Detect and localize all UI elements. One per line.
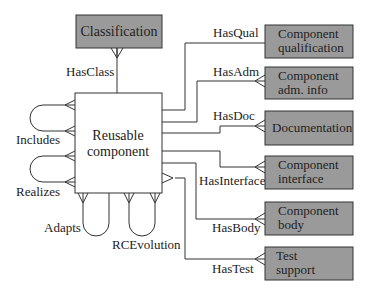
svg-text:adm. info: adm. info <box>278 82 328 97</box>
svg-text:Component: Component <box>278 68 339 83</box>
entity-label: Classification <box>81 24 158 39</box>
relation-rcevolution: RCEvolution <box>112 193 181 252</box>
svg-text:Component: Component <box>278 26 339 41</box>
relation-label: Includes <box>16 132 60 147</box>
relation-label-hasbody: HasBody <box>212 220 261 235</box>
svg-text:Documentation: Documentation <box>272 120 353 135</box>
entity-component-body[interactable]: Component body <box>265 202 353 235</box>
svg-text:interface: interface <box>278 171 324 186</box>
relation-label-hastest: HasTest <box>212 261 254 276</box>
relation-label-hasinterface: HasInterface <box>199 173 266 188</box>
entity-component-interface[interactable]: Component interface <box>265 156 353 189</box>
entity-classification[interactable]: Classification <box>76 15 162 48</box>
entity-label-line2: component <box>87 144 149 159</box>
entity-documentation[interactable]: Documentation <box>265 111 353 145</box>
svg-text:Component: Component <box>278 157 339 172</box>
entity-label-line1: Reusable <box>92 128 143 143</box>
relation-label: RCEvolution <box>112 237 181 252</box>
relation-hasclass: HasClass <box>66 48 123 93</box>
svg-text:body: body <box>278 217 305 232</box>
entity-component-adm-info[interactable]: Component adm. info <box>265 67 353 99</box>
er-diagram: Classification HasClass Reusable compone… <box>0 0 371 294</box>
svg-text:qualification: qualification <box>278 40 344 55</box>
svg-text:Component: Component <box>278 203 339 218</box>
relation-realizes: Realizes <box>16 151 75 199</box>
relation-label-hasdoc: HasDoc <box>213 108 255 123</box>
svg-text:support: support <box>276 262 315 277</box>
relation-includes: Includes <box>16 100 75 147</box>
relation-label-hasadm: HasAdm <box>213 64 259 79</box>
relation-label: Realizes <box>16 184 60 199</box>
crows-foot-icon <box>162 173 173 183</box>
entity-test-support[interactable]: Test support <box>265 247 353 280</box>
entity-reusable-component[interactable]: Reusable component <box>75 93 162 193</box>
relation-label-hasqual: HasQual <box>213 25 259 40</box>
svg-text:Test: Test <box>276 248 298 263</box>
relation-adapts: Adapts <box>44 193 109 236</box>
relation-label: HasClass <box>66 64 114 79</box>
relation-label: Adapts <box>44 220 81 235</box>
crows-foot-icon <box>111 48 123 58</box>
entity-component-qualification[interactable]: Component qualification <box>265 25 353 58</box>
